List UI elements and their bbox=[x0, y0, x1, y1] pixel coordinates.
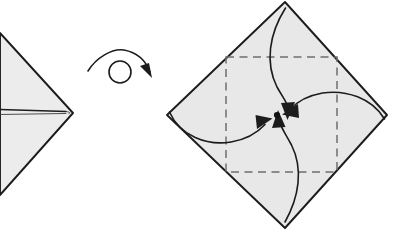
turn-over-symbol-group bbox=[88, 50, 152, 83]
diagram-canvas bbox=[0, 0, 393, 234]
left-panel-previous-step-model bbox=[0, 33, 73, 195]
turn-over-circle-icon bbox=[109, 61, 131, 83]
right-panel-next-step-model bbox=[167, 2, 387, 228]
origami-diagram bbox=[0, 0, 393, 234]
turn-over-arrowhead-icon bbox=[140, 63, 152, 78]
center-dot bbox=[274, 112, 280, 118]
